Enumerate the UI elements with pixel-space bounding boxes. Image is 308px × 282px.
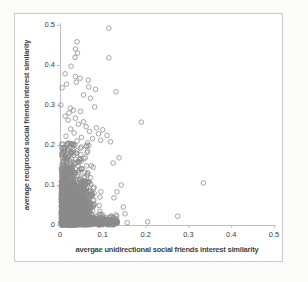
y-axis-title: average reciprocal social friends intere… — [23, 40, 31, 210]
scatter-chart-figure: average reciprocal social friends intere… — [0, 0, 308, 282]
x-tick-label: 0 — [58, 231, 62, 239]
x-tick-label: 0.5 — [269, 231, 279, 239]
y-tick-label: 0.2 — [45, 141, 55, 149]
x-tick-label: 0.1 — [98, 231, 108, 239]
y-tick-label: 0 — [51, 221, 55, 229]
x-tick-label: 0.3 — [183, 231, 193, 239]
y-tick-label: 0.5 — [45, 21, 55, 29]
x-axis-title: avergae unidirectional social friends in… — [76, 246, 259, 254]
y-tick-label: 0.3 — [45, 101, 55, 109]
y-tick-label: 0.4 — [45, 61, 55, 69]
x-tick-label: 0.4 — [226, 231, 236, 239]
y-tick-label: 0.1 — [45, 181, 55, 189]
x-tick-label: 0.2 — [140, 231, 150, 239]
